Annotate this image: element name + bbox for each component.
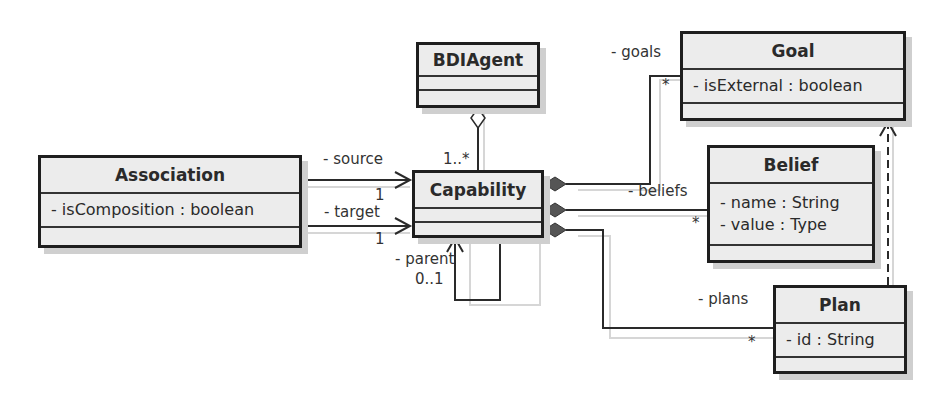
- operations-compartment: [683, 104, 903, 114]
- operations-compartment: [776, 358, 904, 368]
- attribute: - isExternal : boolean: [683, 70, 903, 104]
- multiplicity-beliefs: *: [692, 214, 700, 232]
- uml-class-diagram: BDIAgent Association - isComposition : b…: [0, 0, 950, 400]
- operations-compartment: [710, 246, 872, 256]
- attributes-compartment: [419, 77, 537, 91]
- attribute: - isComposition : boolean: [41, 194, 299, 228]
- multiplicity-target: 1: [375, 230, 385, 248]
- class-name: Plan: [776, 288, 904, 324]
- attribute: - value : Type: [720, 214, 862, 236]
- class-plan[interactable]: Plan - id : String: [773, 285, 907, 374]
- attributes-compartment: [415, 209, 541, 223]
- role-source: - source: [323, 150, 383, 168]
- multiplicity-plans: *: [748, 333, 756, 351]
- role-goals: - goals: [611, 43, 661, 61]
- role-beliefs: - beliefs: [628, 182, 688, 200]
- role-parent: - parent: [395, 250, 454, 268]
- multiplicity-parent: 0..1: [415, 270, 444, 288]
- attributes-compartment: - name : String - value : Type: [710, 184, 872, 246]
- class-name: Goal: [683, 34, 903, 70]
- operations-compartment: [41, 228, 299, 238]
- class-belief[interactable]: Belief - name : String - value : Type: [707, 145, 875, 263]
- class-name: BDIAgent: [419, 45, 537, 77]
- operations-compartment: [415, 223, 541, 233]
- class-name: Association: [41, 158, 299, 194]
- class-bdiagent[interactable]: BDIAgent: [416, 42, 540, 108]
- multiplicity-goals: *: [662, 76, 670, 94]
- attribute: - id : String: [776, 324, 904, 358]
- aggregation-diamond: [471, 108, 485, 128]
- multiplicity-source: 1: [375, 186, 385, 204]
- class-association[interactable]: Association - isComposition : boolean: [38, 155, 302, 248]
- multiplicity-agent: 1..*: [443, 150, 470, 168]
- operations-compartment: [419, 91, 537, 101]
- role-target: - target: [324, 203, 380, 221]
- role-plans: - plans: [698, 290, 748, 308]
- class-name: Belief: [710, 148, 872, 184]
- class-name: Capability: [415, 173, 541, 209]
- attribute: - name : String: [720, 192, 862, 214]
- class-goal[interactable]: Goal - isExternal : boolean: [680, 31, 906, 121]
- class-capability[interactable]: Capability: [412, 170, 544, 238]
